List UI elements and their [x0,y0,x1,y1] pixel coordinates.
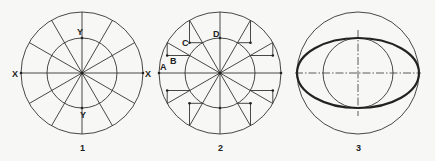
figure-3: 3 [295,12,421,153]
label-a: A [160,62,167,72]
label-y-bottom: Y [80,110,86,120]
label-b: B [170,56,177,66]
figure-caption-2: 2 [218,143,223,153]
figure-1: X X Y Y 1 [12,12,151,153]
label-y-top: Y [77,27,83,37]
center-point [80,71,83,74]
ellipse-construction-diagram: X X Y Y 1 [0,0,435,161]
figure-caption-1: 1 [80,143,85,153]
label-d: D [213,29,220,39]
label-x-left: X [12,69,18,79]
figure-caption-3: 3 [356,143,361,153]
label-c: C [182,38,189,48]
figure-2: A B C D 2 [158,12,283,153]
label-x-right: X [145,69,151,79]
